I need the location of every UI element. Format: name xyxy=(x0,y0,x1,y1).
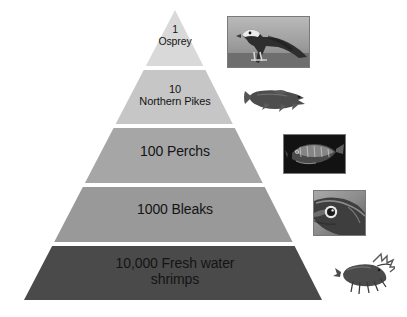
shrimp-photo xyxy=(333,250,395,296)
pyramid-figure: 1 Osprey 10 Northern Pikes 100 Perchs 10… xyxy=(0,0,407,317)
tier-band-pike-fill xyxy=(0,70,407,124)
tier-divider-2 xyxy=(0,124,407,128)
tier-divider-4 xyxy=(0,242,407,246)
pike-photo xyxy=(243,83,312,117)
bleak-photo xyxy=(313,190,366,236)
tier-band-osprey xyxy=(0,10,407,66)
tier-divider-3 xyxy=(0,183,407,187)
osprey-photo xyxy=(227,16,310,68)
tier-band-pike xyxy=(0,66,407,70)
perch-photo xyxy=(283,134,346,174)
